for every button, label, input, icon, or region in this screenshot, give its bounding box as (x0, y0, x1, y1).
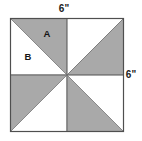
figure-canvas: 6" 6" A B (0, 0, 142, 141)
top-dimension-label: 6" (59, 3, 70, 14)
geometry-figure: 6" 6" A B (0, 0, 142, 141)
region-label-b: B (25, 51, 32, 62)
region-label-a: A (44, 28, 51, 39)
right-dimension-label: 6" (126, 69, 137, 80)
